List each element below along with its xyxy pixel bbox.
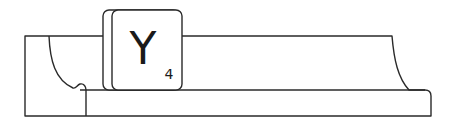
tile-letter: Y [129,23,157,74]
tile-rack-diagram: Y 4 [0,0,455,128]
tile-points: 4 [165,66,174,82]
